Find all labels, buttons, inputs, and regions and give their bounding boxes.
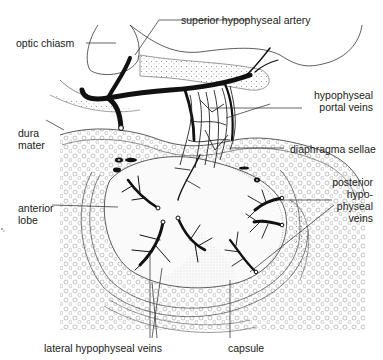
label-posterior-hypophyseal-veins: posterior hypo- physeal veins [332,176,373,224]
vessel-cut-end [280,196,284,200]
label-hypophyseal-portal-veins: hypophyseal portal veins [314,89,373,113]
vessel-cut-end [119,126,124,131]
label-lateral-hypophyseal-veins: lateral hypophyseal veins [44,342,162,354]
vessel-cut-end [156,206,160,210]
label-anterior-lobe: anterior lobe [18,202,54,226]
vessel-cut-end [254,270,258,274]
label-optic-chiasm: optic chiasm [16,37,74,49]
label-diaphragma-sellae: diaphragma sellae [290,143,376,155]
stray-mark [3,230,4,231]
anatomical-drawing [0,0,383,360]
pituitary-diagram: optic chiasm superior hypophyseal artery… [0,0,383,360]
stray-mark [1,228,3,230]
vessel-cut-end [161,220,165,224]
label-superior-hypophyseal-artery: superior hypophyseal artery [181,14,311,26]
vessel-cut-end [176,216,180,220]
label-dura-mater: dura mater [18,127,45,151]
vessel-cut-end [280,223,284,227]
label-capsule: capsule [228,342,264,354]
